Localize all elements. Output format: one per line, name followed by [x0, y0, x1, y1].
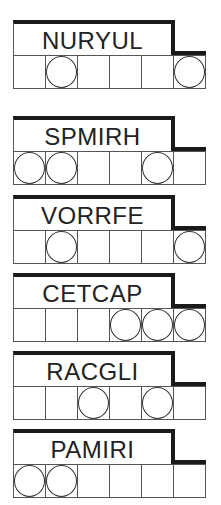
answer-cell[interactable] [174, 152, 206, 184]
scrambled-word: NURYUL [42, 27, 143, 53]
answer-cell[interactable] [14, 56, 46, 88]
jumble-puzzle: PAMIRI [13, 429, 206, 498]
circle-marker-icon [46, 465, 77, 497]
answer-cell-circled[interactable] [174, 309, 206, 341]
answer-cell-circled[interactable] [174, 231, 206, 263]
jumble-puzzle: RACGLI [13, 351, 206, 420]
answer-cell[interactable] [78, 309, 110, 341]
answer-cell[interactable] [78, 56, 110, 88]
jumble-puzzle: NURYUL [13, 20, 206, 89]
jumble-puzzle: SPMIRH [13, 116, 206, 185]
answer-cell-circled[interactable] [174, 56, 206, 88]
answer-cells [13, 151, 206, 185]
answer-cell[interactable] [174, 465, 206, 497]
scrambled-word-box: RACGLI [13, 351, 175, 386]
answer-cells [13, 55, 206, 89]
answer-cell-circled[interactable] [78, 387, 110, 419]
answer-cell[interactable] [110, 465, 142, 497]
answer-cell[interactable] [14, 387, 46, 419]
answer-cells [13, 230, 206, 264]
scrambled-word: SPMIRH [44, 123, 140, 149]
answer-cell[interactable] [78, 231, 110, 263]
answer-cell-circled[interactable] [46, 465, 78, 497]
answer-cells [13, 464, 206, 498]
jumble-puzzle: VORRFE [13, 195, 206, 264]
answer-cell[interactable] [110, 387, 142, 419]
answer-cell-circled[interactable] [46, 231, 78, 263]
answer-cell[interactable] [142, 231, 174, 263]
answer-cell[interactable] [46, 309, 78, 341]
answer-cell[interactable] [14, 231, 46, 263]
circle-marker-icon [142, 309, 173, 341]
circle-marker-icon [14, 465, 45, 497]
circle-marker-icon [46, 231, 77, 263]
circle-marker-icon [174, 231, 205, 263]
answer-cell[interactable] [78, 465, 110, 497]
answer-cell[interactable] [14, 309, 46, 341]
answer-cell-circled[interactable] [142, 309, 174, 341]
scrambled-word: PAMIRI [51, 436, 135, 462]
scrambled-word: RACGLI [46, 358, 138, 384]
answer-cell-circled[interactable] [110, 309, 142, 341]
answer-cell[interactable] [142, 56, 174, 88]
answer-cell-circled[interactable] [14, 465, 46, 497]
answer-cells [13, 386, 206, 420]
circle-marker-icon [174, 56, 205, 88]
answer-cell-circled[interactable] [14, 152, 46, 184]
answer-cell-circled[interactable] [142, 387, 174, 419]
circle-marker-icon [14, 152, 45, 184]
circle-marker-icon [142, 152, 173, 184]
answer-cell[interactable] [78, 152, 110, 184]
scrambled-word: VORRFE [41, 202, 144, 228]
scrambled-word-box: CETCAP [13, 273, 175, 308]
answer-cell-circled[interactable] [142, 152, 174, 184]
answer-cell[interactable] [174, 387, 206, 419]
circle-marker-icon [142, 387, 173, 419]
answer-cell[interactable] [110, 231, 142, 263]
scrambled-word-box: NURYUL [13, 20, 175, 55]
circle-marker-icon [78, 387, 109, 419]
answer-cells [13, 308, 206, 342]
circle-marker-icon [46, 152, 77, 184]
answer-cell[interactable] [142, 465, 174, 497]
answer-cell[interactable] [110, 56, 142, 88]
scrambled-word-box: PAMIRI [13, 429, 175, 464]
answer-cell-circled[interactable] [46, 152, 78, 184]
scrambled-word-box: SPMIRH [13, 116, 175, 151]
scrambled-word: CETCAP [42, 280, 142, 306]
answer-cell-circled[interactable] [46, 56, 78, 88]
circle-marker-icon [46, 56, 77, 88]
jumble-puzzle: CETCAP [13, 273, 206, 342]
scrambled-word-box: VORRFE [13, 195, 175, 230]
circle-marker-icon [174, 309, 205, 341]
circle-marker-icon [110, 309, 141, 341]
answer-cell[interactable] [46, 387, 78, 419]
answer-cell[interactable] [110, 152, 142, 184]
